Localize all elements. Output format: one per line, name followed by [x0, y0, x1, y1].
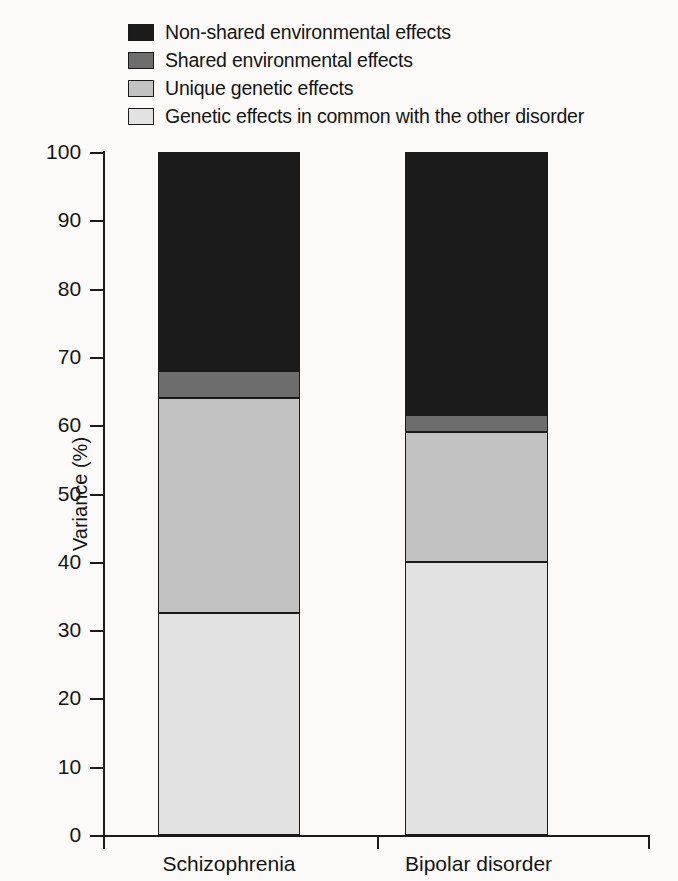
y-tick-label-60: 60 [21, 414, 81, 435]
x-tick-right [648, 835, 650, 849]
legend-item-non-shared-environmental-effects: Non-shared environmental effects [128, 18, 668, 46]
bar-segment-bipolar-disorder-unique-genetic-effects[interactable] [405, 432, 548, 562]
y-tick-label-20: 20 [21, 687, 81, 708]
legend-swatch-common-genetic-effects [128, 108, 154, 125]
bar-segment-schizophrenia-non-shared-environmental-effects[interactable] [158, 152, 300, 371]
chart-legend: Non-shared environmental effects Shared … [128, 18, 668, 130]
legend-label-unique-genetic-effects: Unique genetic effects [165, 78, 353, 98]
y-tick-label-80: 80 [21, 278, 81, 299]
y-tick-80 [90, 289, 103, 291]
legend-swatch-unique-genetic-effects [128, 80, 154, 97]
y-tick-label-0: 0 [21, 824, 81, 845]
x-axis-label-schizophrenia: Schizophrenia [158, 852, 300, 876]
x-tick-left [103, 835, 105, 849]
legend-label-common-genetic-effects: Genetic effects in common with the other… [165, 106, 584, 126]
y-tick-90 [90, 220, 103, 222]
y-tick-label-30: 30 [21, 619, 81, 640]
bar-segment-bipolar-disorder-common-genetic-effects[interactable] [405, 562, 548, 835]
y-tick-60 [90, 425, 103, 427]
legend-swatch-non-shared-environmental-effects [128, 24, 154, 41]
bar-segment-bipolar-disorder-non-shared-environmental-effects[interactable] [405, 152, 548, 415]
y-tick-label-90: 90 [21, 209, 81, 230]
legend-swatch-shared-environmental-effects [128, 52, 154, 69]
bar-segment-schizophrenia-common-genetic-effects[interactable] [158, 613, 300, 835]
y-tick-70 [90, 357, 103, 359]
legend-item-shared-environmental-effects: Shared environmental effects [128, 46, 668, 74]
bar-segment-bipolar-disorder-shared-environmental-effects[interactable] [405, 415, 548, 432]
y-axis-spine [103, 151, 105, 836]
y-tick-100 [90, 152, 103, 154]
y-tick-label-50: 50 [21, 483, 81, 504]
legend-label-shared-environmental-effects: Shared environmental effects [165, 50, 413, 70]
legend-label-non-shared-environmental-effects: Non-shared environmental effects [165, 22, 451, 42]
y-tick-label-100: 100 [21, 141, 81, 162]
y-tick-50 [90, 494, 103, 496]
x-axis-label-bipolar-disorder: Bipolar disorder [405, 852, 548, 876]
y-tick-label-40: 40 [21, 551, 81, 572]
legend-item-unique-genetic-effects: Unique genetic effects [128, 74, 668, 102]
y-tick-20 [90, 698, 103, 700]
y-tick-0 [90, 835, 103, 837]
x-tick-middle [377, 835, 379, 849]
y-tick-label-70: 70 [21, 346, 81, 367]
plot-area: Variance (%) 100 90 80 70 60 50 40 30 20… [103, 152, 650, 835]
y-tick-30 [90, 630, 103, 632]
y-tick-label-10: 10 [21, 756, 81, 777]
bar-schizophrenia[interactable] [158, 152, 300, 835]
y-tick-40 [90, 562, 103, 564]
bar-segment-schizophrenia-unique-genetic-effects[interactable] [158, 398, 300, 613]
stacked-bar-chart-figure: Non-shared environmental effects Shared … [0, 0, 678, 881]
bar-bipolar-disorder[interactable] [405, 152, 548, 835]
legend-item-common-genetic-effects: Genetic effects in common with the other… [128, 102, 668, 130]
bar-segment-schizophrenia-shared-environmental-effects[interactable] [158, 371, 300, 398]
y-tick-10 [90, 767, 103, 769]
